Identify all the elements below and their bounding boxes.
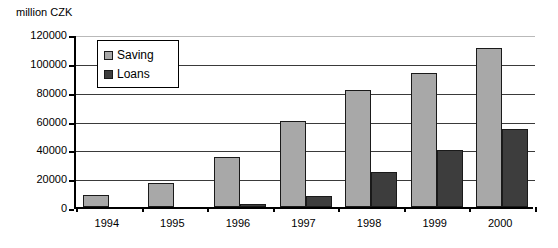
y-axis-tick-mark bbox=[69, 36, 74, 38]
gridline bbox=[76, 151, 535, 152]
x-axis-label-1996: 1996 bbox=[226, 217, 250, 229]
bar-saving-2000 bbox=[476, 48, 502, 207]
y-axis-tick-label: 80000 bbox=[0, 88, 74, 99]
y-axis-tick-mark bbox=[69, 151, 74, 153]
x-axis-tick-mark bbox=[142, 207, 144, 212]
x-axis-tick-mark bbox=[76, 207, 78, 212]
bar-saving-1995 bbox=[148, 183, 174, 207]
bar-saving-1996 bbox=[214, 157, 240, 207]
x-axis-tick-mark bbox=[207, 207, 209, 212]
x-axis-label-1999: 1999 bbox=[422, 217, 446, 229]
gridline bbox=[76, 94, 535, 95]
legend-label-saving: Saving bbox=[117, 49, 154, 62]
legend-swatch-loans-icon bbox=[104, 70, 113, 79]
x-axis-tick-mark bbox=[404, 207, 406, 212]
bar-loans-1996 bbox=[240, 204, 266, 207]
y-axis-tick-label: 60000 bbox=[0, 117, 74, 128]
chart-legend: Saving Loans bbox=[97, 40, 179, 88]
gridline bbox=[76, 36, 535, 37]
bar-loans-1997 bbox=[306, 196, 332, 207]
gridline bbox=[76, 123, 535, 124]
bar-saving-1998 bbox=[345, 90, 371, 207]
y-axis-tick-label: 40000 bbox=[0, 145, 74, 156]
y-axis-tick-mark bbox=[69, 65, 74, 67]
y-axis-unit-label: million CZK bbox=[16, 6, 72, 19]
x-axis-label-1995: 1995 bbox=[160, 217, 184, 229]
legend-item-loans: Loans bbox=[104, 65, 178, 84]
x-axis-label-2000: 2000 bbox=[488, 217, 512, 229]
legend-swatch-saving-icon bbox=[104, 51, 113, 60]
x-axis-label-1998: 1998 bbox=[357, 217, 381, 229]
x-axis-tick-mark bbox=[273, 207, 275, 212]
bar-saving-1994 bbox=[83, 195, 109, 207]
y-axis-tick-label: 120000 bbox=[0, 30, 74, 41]
y-axis-tick-label: 100000 bbox=[0, 59, 74, 70]
x-axis-label-1997: 1997 bbox=[291, 217, 315, 229]
x-axis-tick-mark bbox=[469, 207, 471, 212]
bar-saving-1997 bbox=[280, 121, 306, 208]
y-axis-tick-mark bbox=[69, 209, 74, 211]
bar-loans-2000 bbox=[502, 129, 528, 207]
bar-chart: million CZK 0200004000060000800001000001… bbox=[0, 0, 558, 248]
y-axis-tick-mark bbox=[69, 94, 74, 96]
legend-label-loans: Loans bbox=[117, 68, 150, 81]
x-axis-tick-mark bbox=[338, 207, 340, 212]
x-axis-label-1994: 1994 bbox=[95, 217, 119, 229]
gridline bbox=[76, 180, 535, 181]
y-axis-tick-label: 20000 bbox=[0, 174, 74, 185]
bar-loans-1998 bbox=[371, 172, 397, 207]
bar-saving-1999 bbox=[411, 73, 437, 207]
x-axis-tick-mark bbox=[535, 207, 537, 212]
y-axis-tick-mark bbox=[69, 123, 74, 125]
y-axis-tick-label: 0 bbox=[0, 203, 74, 214]
legend-item-saving: Saving bbox=[104, 46, 178, 65]
bar-loans-1999 bbox=[437, 150, 463, 207]
y-axis-tick-mark bbox=[69, 180, 74, 182]
